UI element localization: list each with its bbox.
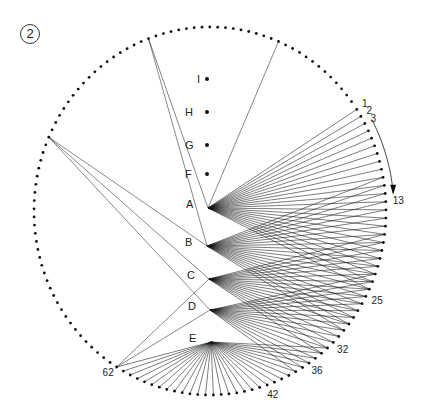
node-label-h: H — [185, 107, 193, 118]
circle-dot — [311, 60, 314, 63]
circle-dot — [294, 370, 297, 373]
point-label-32: 32 — [337, 345, 348, 355]
circle-dot — [314, 357, 317, 360]
circle-dot — [240, 29, 243, 32]
circle-dot — [54, 121, 57, 124]
connection-line — [208, 146, 375, 208]
node-dot — [205, 172, 209, 176]
circle-dot — [37, 248, 40, 251]
connection-line — [210, 310, 296, 372]
connection-line — [208, 109, 357, 208]
circle-dot — [317, 65, 320, 68]
connection-line — [117, 279, 209, 367]
circle-dot — [381, 249, 384, 252]
circle-dot — [385, 209, 388, 212]
circle-dot — [38, 256, 41, 259]
circle-dot — [94, 70, 97, 73]
circle-dot — [96, 351, 99, 354]
circle-dot — [373, 144, 376, 147]
circle-dot — [64, 315, 67, 318]
circle-dot — [247, 30, 250, 33]
connection-line — [209, 279, 354, 318]
circle-dot — [382, 241, 385, 244]
circle-dot — [376, 152, 379, 155]
circle-dot — [224, 26, 227, 29]
circle-dot — [258, 386, 261, 389]
circle-dot — [136, 377, 139, 380]
circle-dot — [52, 294, 55, 297]
circle-dot — [324, 70, 327, 73]
circle-dot — [385, 217, 388, 220]
connection-line — [210, 297, 366, 311]
circle-dot — [280, 378, 283, 381]
circle-dot — [106, 60, 109, 63]
circle-dot — [44, 143, 47, 146]
circle-dot — [291, 47, 294, 50]
circle-dot — [298, 51, 301, 54]
circular-connection-diagram — [0, 0, 421, 418]
circle-dot — [143, 380, 146, 383]
point-label-62: 62 — [103, 368, 114, 378]
circle-dot — [305, 56, 308, 59]
node-dot — [205, 110, 209, 114]
circle-dot — [147, 37, 150, 40]
circle-dot — [228, 393, 231, 396]
circle-dot — [129, 374, 132, 377]
circle-dot — [40, 264, 43, 267]
circle-dot — [133, 44, 136, 47]
connection-line — [210, 310, 339, 337]
circle-dot — [377, 265, 380, 268]
circle-dot — [162, 32, 165, 35]
circle-dot — [112, 56, 115, 59]
point-label-42: 42 — [267, 390, 278, 400]
connection-line — [208, 154, 377, 209]
circle-dot — [380, 168, 383, 171]
circle-dot — [193, 26, 196, 29]
circle-dot — [67, 100, 70, 103]
circle-dot — [34, 191, 37, 194]
node-dot — [205, 77, 209, 81]
circle-dot — [109, 361, 112, 364]
node-label-g: G — [185, 140, 194, 151]
connection-line — [207, 218, 386, 246]
circle-dot — [102, 356, 105, 359]
circle-dot — [42, 151, 45, 154]
connection-line — [49, 137, 210, 310]
circle-dot — [367, 129, 370, 132]
circle-dot — [85, 340, 88, 343]
circle-dot — [82, 82, 85, 85]
circle-dot — [326, 347, 329, 350]
circle-dot — [90, 346, 93, 349]
circle-dot — [270, 37, 273, 40]
circle-dot — [46, 279, 49, 282]
point-label-25: 25 — [372, 296, 383, 306]
circle-dot — [383, 184, 386, 187]
circle-dot — [235, 392, 238, 395]
connection-line — [211, 342, 267, 385]
circle-dot — [196, 393, 199, 396]
circle-dot — [181, 391, 184, 394]
circle-dot — [47, 136, 50, 139]
circle-dot — [277, 40, 280, 43]
circle-dot — [165, 388, 168, 391]
circle-dot — [220, 393, 223, 396]
connection-line — [49, 137, 207, 246]
circle-dot — [383, 233, 386, 236]
circle-dot — [332, 341, 335, 344]
circle-dot — [212, 394, 215, 397]
circle-dot — [189, 392, 192, 395]
connection-line — [211, 342, 213, 395]
node-label-e: E — [189, 333, 196, 344]
circle-dot — [355, 108, 358, 111]
connection-line — [49, 137, 209, 279]
node-label-i: I — [197, 74, 200, 85]
circle-dot — [177, 29, 180, 32]
connection-line — [210, 310, 358, 311]
circle-dot — [140, 40, 143, 43]
connection-line — [208, 208, 380, 259]
circle-dot — [49, 287, 52, 290]
circle-dot — [126, 47, 129, 50]
circle-dot — [35, 240, 38, 243]
circle-dot — [34, 232, 37, 235]
circle-dot — [88, 76, 91, 79]
